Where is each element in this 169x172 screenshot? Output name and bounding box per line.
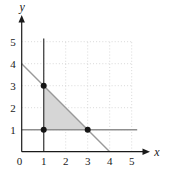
vertex-dot-1-1	[41, 127, 47, 133]
x-tick-label-4: 4	[107, 155, 113, 167]
graph-canvas: 01234512345xy	[0, 0, 169, 172]
x-tick-label-0: 0	[17, 155, 23, 167]
coordinate-plane-figure: 01234512345xy	[0, 0, 169, 172]
vertex-dot-1-3	[41, 83, 47, 89]
y-tick-label-3: 3	[10, 80, 16, 92]
y-tick-label-1: 1	[10, 124, 16, 136]
vertex-dot-3-1	[85, 127, 91, 133]
x-tick-label-1: 1	[41, 155, 47, 167]
x-axis-label: x	[153, 145, 160, 159]
y-tick-label-5: 5	[10, 36, 16, 48]
x-tick-label-5: 5	[129, 155, 135, 167]
y-tick-label-4: 4	[10, 58, 16, 70]
y-axis-label: y	[19, 0, 26, 14]
x-tick-label-2: 2	[63, 155, 69, 167]
x-tick-label-3: 3	[85, 155, 91, 167]
y-tick-label-2: 2	[10, 102, 16, 114]
